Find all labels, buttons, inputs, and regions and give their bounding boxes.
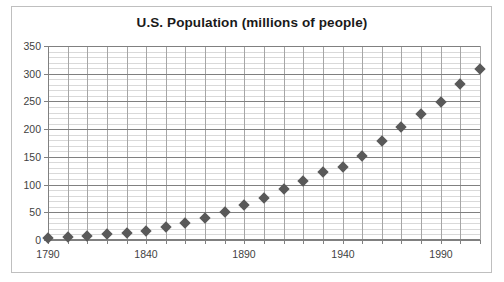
data-point: [435, 96, 446, 107]
x-axis-tick-mark: [343, 240, 344, 244]
data-point: [278, 183, 289, 194]
chart-container: U.S. Population (millions of people) 050…: [0, 0, 504, 282]
gridline-major: [48, 157, 480, 158]
gridline-minor: [48, 168, 480, 169]
data-point: [180, 217, 191, 228]
gridline-vertical: [382, 46, 383, 240]
x-axis-tick-mark: [107, 240, 108, 244]
gridline-major: [48, 185, 480, 186]
gridline-minor: [48, 234, 480, 235]
gridline-major: [48, 129, 480, 130]
gridline-minor: [48, 90, 480, 91]
gridline-minor: [48, 135, 480, 136]
y-axis-tick-label: 250: [1, 96, 41, 106]
gridline-minor: [48, 107, 480, 108]
gridline-minor: [48, 185, 480, 186]
gridline-minor: [48, 118, 480, 119]
gridline-minor: [48, 146, 480, 147]
gridline-minor: [48, 101, 480, 102]
x-axis-tick-mark: [362, 240, 363, 244]
data-point: [141, 225, 152, 236]
gridline-minor: [48, 196, 480, 197]
y-axis-tick-label: 150: [1, 152, 41, 162]
x-axis-tick-mark: [421, 240, 422, 244]
gridline-minor: [48, 207, 480, 208]
gridline-minor: [48, 173, 480, 174]
gridline-vertical: [441, 46, 442, 240]
x-axis-tick-mark: [48, 240, 49, 244]
gridline-minor: [48, 79, 480, 80]
gridline-minor: [48, 57, 480, 58]
y-axis-tick-label: 100: [1, 180, 41, 190]
gridline-minor: [48, 68, 480, 69]
x-axis-tick-label: 1940: [313, 248, 373, 260]
x-axis-tick-mark: [284, 240, 285, 244]
x-axis-tick-label: 1790: [18, 248, 78, 260]
x-axis-tick-mark: [68, 240, 69, 244]
gridline-vertical: [107, 46, 108, 240]
y-axis-tick-label: 0: [1, 235, 41, 245]
gridline-vertical: [185, 46, 186, 240]
x-axis-line: [48, 239, 480, 240]
gridline-vertical: [323, 46, 324, 240]
vertical-gridlines: [48, 46, 480, 240]
gridline-minor: [48, 74, 480, 75]
x-axis-tick-mark: [146, 240, 147, 244]
data-point: [199, 213, 210, 224]
gridline-minor: [48, 151, 480, 152]
x-axis-tick-mark: [205, 240, 206, 244]
gridline-minor: [48, 212, 480, 213]
gridline-vertical: [401, 46, 402, 240]
data-point: [298, 176, 309, 187]
gridline-minor: [48, 113, 480, 114]
gridline-minor: [48, 218, 480, 219]
gridline-major: [48, 74, 480, 75]
gridline-vertical: [343, 46, 344, 240]
gridline-minor: [48, 124, 480, 125]
data-point: [396, 122, 407, 133]
data-point: [415, 109, 426, 120]
major-gridlines: [48, 46, 480, 240]
data-series: [48, 46, 480, 240]
gridline-major: [48, 101, 480, 102]
gridline-vertical: [303, 46, 304, 240]
gridline-minor: [48, 223, 480, 224]
chart-title: U.S. Population (millions of people): [0, 15, 504, 30]
gridline-vertical: [127, 46, 128, 240]
x-axis-tick-mark: [303, 240, 304, 244]
gridline-vertical: [362, 46, 363, 240]
x-axis-tick-mark: [382, 240, 383, 244]
data-point: [337, 161, 348, 172]
x-axis-tick-label: 1990: [411, 248, 471, 260]
x-axis-tick-label: 1840: [116, 248, 176, 260]
data-point: [357, 151, 368, 162]
data-point: [239, 199, 250, 210]
gridline-minor: [48, 96, 480, 97]
gridline-vertical: [284, 46, 285, 240]
x-axis-tick-mark: [244, 240, 245, 244]
gridline-major: [48, 212, 480, 213]
gridline-vertical: [421, 46, 422, 240]
gridline-minor: [48, 63, 480, 64]
gridline-vertical: [225, 46, 226, 240]
data-point: [160, 222, 171, 233]
gridline-minor: [48, 190, 480, 191]
gridline-vertical: [205, 46, 206, 240]
data-point: [219, 207, 230, 218]
gridline-vertical: [146, 46, 147, 240]
x-axis-tick-label: 1890: [214, 248, 274, 260]
gridline-vertical: [166, 46, 167, 240]
x-axis-tick-mark: [460, 240, 461, 244]
y-axis-tick-label: 200: [1, 124, 41, 134]
data-point: [258, 192, 269, 203]
gridline-minor: [48, 140, 480, 141]
data-point: [455, 79, 466, 90]
gridline-minor: [48, 46, 480, 47]
minor-gridlines: [48, 46, 480, 240]
x-axis-tick-mark: [441, 240, 442, 244]
y-axis-line: [48, 46, 49, 240]
x-axis-tick-mark: [166, 240, 167, 244]
gridline-minor: [48, 162, 480, 163]
gridline-vertical: [68, 46, 69, 240]
gridline-minor: [48, 129, 480, 130]
